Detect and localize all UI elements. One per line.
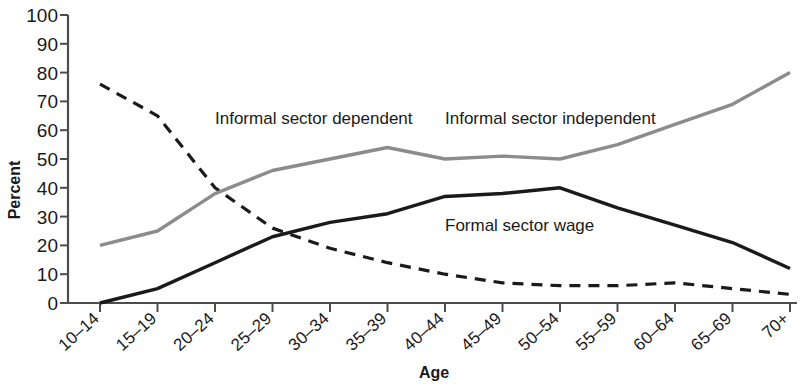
series-label-1: Informal sector independent [445, 109, 656, 128]
y-axis-title: Percent [6, 160, 23, 219]
y-axis-tick-label: 90 [37, 34, 58, 55]
line-chart: 0102030405060708090100 10–1415–1920–2425… [0, 0, 808, 386]
series-label-0: Informal sector dependent [215, 109, 413, 128]
chart-container: 0102030405060708090100 10–1415–1920–2425… [0, 0, 808, 386]
series-label-2: Formal sector wage [445, 216, 594, 235]
y-axis-tick-label: 40 [37, 178, 58, 199]
y-axis-tick-label: 80 [37, 63, 58, 84]
y-axis-tick-label: 70 [37, 91, 58, 112]
y-axis-tick-label: 60 [37, 120, 58, 141]
y-axis-tick-label: 0 [47, 293, 58, 314]
y-axis-tick-label: 50 [37, 149, 58, 170]
y-axis-tick-label: 10 [37, 264, 58, 285]
y-axis-tick-label: 100 [26, 5, 58, 26]
chart-background [0, 0, 808, 386]
y-axis-tick-label: 30 [37, 207, 58, 228]
y-axis-tick-label: 20 [37, 235, 58, 256]
x-axis-title: Age [419, 364, 449, 381]
